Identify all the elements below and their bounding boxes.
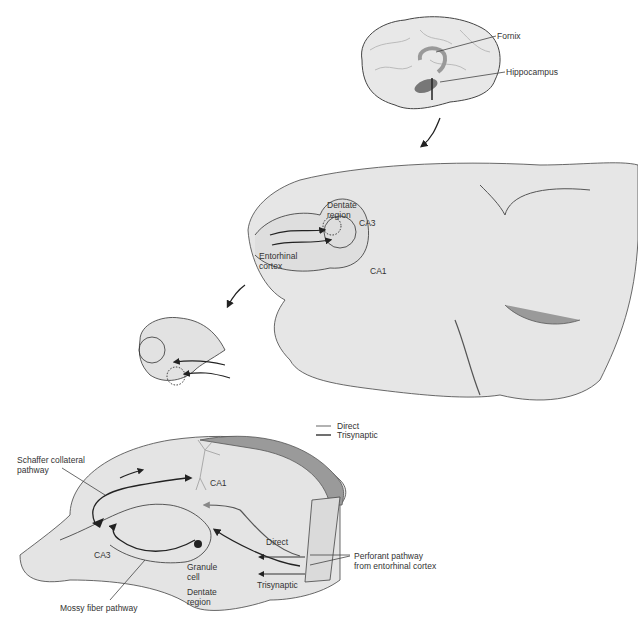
label-schaffer-2: pathway	[17, 465, 49, 475]
label-dentate-circuit-2: region	[187, 597, 211, 607]
label-ca1-circuit: CA1	[210, 478, 227, 488]
label-schaffer-1: Schaffer collateral	[17, 455, 85, 465]
label-dentate-region-1: Dentate	[327, 200, 357, 210]
label-trisynaptic-circuit: Trisynaptic	[257, 580, 298, 590]
label-perforant-1: Perforant pathway	[354, 551, 423, 561]
label-ca3-section: CA3	[359, 218, 376, 228]
label-dentate-circuit-1: Dentate	[187, 587, 217, 597]
label-entorhinal-2: cortex	[259, 261, 282, 271]
label-granule-1: Granule	[187, 562, 217, 572]
brain-cross-section	[228, 163, 638, 400]
label-mossy: Mossy fiber pathway	[60, 603, 137, 613]
label-direct-circuit: Direct	[266, 537, 288, 547]
label-perforant-2: from entorhinal cortex	[354, 561, 436, 571]
label-granule-2: cell	[187, 572, 200, 582]
isolated-hippocampus	[139, 317, 230, 385]
brain-illustration	[362, 17, 505, 146]
label-entorhinal-1: Entorhinal	[259, 251, 297, 261]
label-dentate-region-2: region	[327, 210, 351, 220]
label-hippocampus: Hippocampus	[506, 67, 558, 77]
label-fornix: Fornix	[497, 31, 521, 41]
legend-trisynaptic-label: Trisynaptic	[337, 430, 378, 440]
hippocampus-diagram	[0, 0, 638, 631]
label-ca1-section: CA1	[370, 266, 387, 276]
label-ca3-circuit: CA3	[94, 550, 111, 560]
